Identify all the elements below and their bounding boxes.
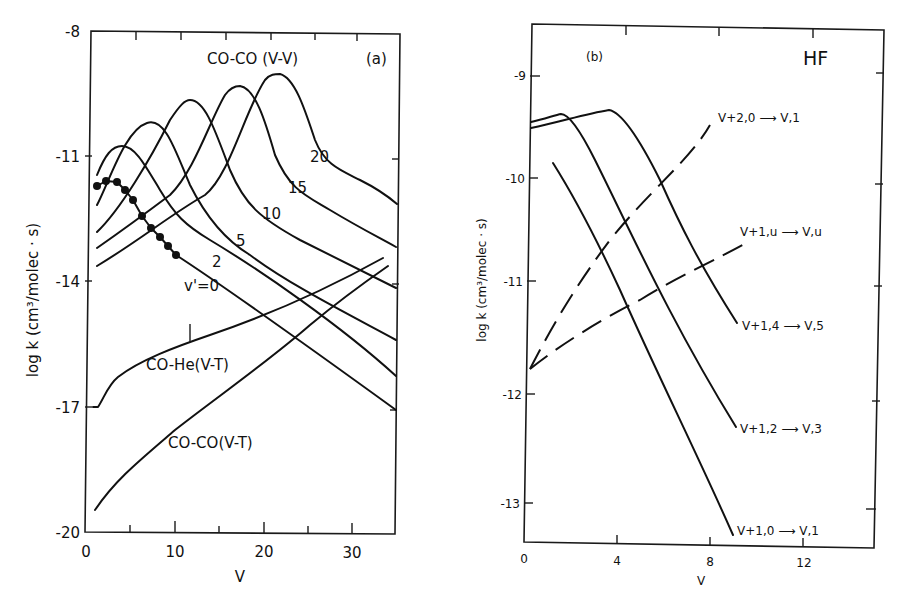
panel-b: -9 -10 -11 -12 -13 0 4 8 12 V log k (cm³…: [475, 24, 884, 588]
x-tick-label: 4: [613, 554, 621, 568]
curve-v1-u-to-v-u: [530, 242, 748, 369]
curve-v2: [97, 146, 396, 376]
x-tick-label: 8: [706, 555, 714, 569]
y-tick-label: -8: [65, 23, 80, 41]
curve-label: 2: [212, 253, 222, 271]
y-tick-label: -14: [56, 273, 81, 291]
panel-b-tag: (b): [586, 50, 603, 64]
curve-label: V+1,0 ⟶ V,1: [737, 524, 819, 538]
curve-label: V+1,2 ⟶ V,3: [740, 422, 822, 436]
x-tick-label: 12: [796, 556, 811, 570]
y-axis-label: log k (cm³/molec · s): [475, 218, 489, 341]
curve-v5: [97, 122, 396, 340]
panel-a-x-ticks: [130, 32, 357, 534]
curve-label: V+1,4 ⟶ V,5: [742, 319, 824, 333]
curve-v10: [97, 100, 396, 288]
curve-co-co-vt: [95, 266, 388, 510]
curve-label: 5: [236, 232, 246, 250]
y-tick-label: -13: [500, 497, 520, 511]
curve-label: 10: [262, 205, 281, 223]
y-tick-label: -17: [56, 399, 81, 417]
curve-v1-4-to-v-5: [531, 110, 737, 323]
curve-v1-0-to-v-1: [553, 163, 733, 535]
x-axis-label: V: [697, 574, 706, 588]
curve-v0-markers: [93, 177, 180, 259]
curve-co-he-vt: [93, 258, 383, 407]
curve-label: 15: [288, 179, 307, 197]
x-tick-label: 30: [342, 544, 361, 562]
y-tick-label: -11: [56, 148, 81, 166]
y-tick-label: -12: [502, 388, 522, 402]
panel-a-title: CO-CO (V-V): [207, 50, 298, 68]
curve-v2-0-to-v-1: [530, 125, 710, 369]
panel-a-frame: [85, 31, 400, 534]
y-tick-label: -10: [505, 172, 525, 186]
curve-label: 20: [310, 148, 329, 166]
y-tick-label: -11: [503, 275, 523, 289]
curve-label: v'=0: [184, 277, 219, 295]
x-tick-label: 10: [165, 543, 184, 561]
x-tick-label: 0: [520, 552, 528, 566]
panel-a: -8 -11 -14 -17 -20 0 10 20 30 V log k (c…: [24, 23, 400, 586]
panel-a-tag: (a): [366, 50, 387, 68]
curve-label: V+1,u ⟶ V,u: [740, 225, 822, 239]
x-axis-label: V: [235, 568, 246, 586]
panel-b-title: HF: [803, 47, 828, 69]
x-tick-label: 20: [254, 543, 273, 561]
x-tick-label: 0: [81, 543, 91, 561]
curve-v15: [97, 86, 396, 248]
curve-label: CO-He(V-T): [146, 356, 229, 374]
figure: -8 -11 -14 -17 -20 0 10 20 30 V log k (c…: [0, 0, 902, 609]
panel-b-y-ticks: [524, 73, 884, 509]
y-tick-label: -20: [56, 524, 81, 542]
y-tick-label: -9: [514, 69, 526, 83]
curve-label: V+2,0 ⟶ V,1: [718, 111, 800, 125]
curve-label: CO-CO(V-T): [168, 434, 253, 452]
y-axis-label: log k (cm³/molec · s): [24, 223, 42, 377]
